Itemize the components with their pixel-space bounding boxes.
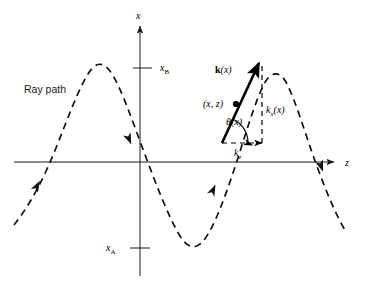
wave-vector-k-arrow bbox=[222, 63, 259, 143]
ray-path-label: Ray path bbox=[24, 83, 66, 95]
turning-point-ticks: xB xA bbox=[105, 62, 169, 256]
x-B-label: xB bbox=[159, 62, 169, 76]
arrow-descending-right bbox=[315, 159, 326, 173]
wave-vector-k-label: k(x) bbox=[215, 64, 232, 76]
ray-path-svg: x z xB xA bbox=[0, 0, 373, 286]
theta-angle-label: θ(x) bbox=[226, 116, 243, 128]
theta-arc-arrowhead bbox=[243, 139, 254, 148]
x-axis-label: x bbox=[135, 10, 141, 21]
z-axis-label: z bbox=[344, 157, 349, 168]
k-x-component-label: kx(x) bbox=[266, 104, 285, 118]
ray-direction-markers bbox=[31, 132, 327, 196]
wave-vector-construction: k(x) (x, z) kx(x) kz θ(x) bbox=[203, 62, 285, 161]
axes-group: x z bbox=[14, 10, 349, 276]
arrow-descending-left bbox=[123, 132, 135, 146]
field-point-label: (x, z) bbox=[203, 98, 224, 110]
ray-path-figure: x z xB xA bbox=[0, 0, 373, 286]
x-A-label: xA bbox=[105, 242, 116, 256]
arrow-ascending-right bbox=[207, 183, 219, 197]
field-point-dot bbox=[233, 101, 239, 107]
